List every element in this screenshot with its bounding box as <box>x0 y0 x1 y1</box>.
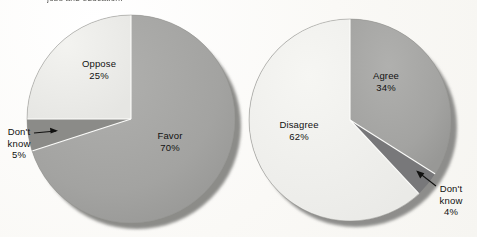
right-label-disagree-name: Disagree <box>279 119 318 130</box>
left-pie-chart <box>27 15 241 229</box>
right-label-dontknow: Don't know 4% <box>432 183 470 218</box>
left-label-favor-name: Favor <box>157 130 182 141</box>
left-label-oppose: Oppose 25% <box>72 58 126 81</box>
left-label-dontknow-name2: know <box>2 138 36 150</box>
pie-charts-svg <box>0 0 477 237</box>
right-label-agree: Agree 34% <box>360 70 412 93</box>
figure-canvas: jobs and education. <box>0 0 477 237</box>
left-label-oppose-name: Oppose <box>82 58 116 69</box>
right-label-agree-name: Agree <box>373 70 399 81</box>
left-label-oppose-value: 25% <box>72 70 126 82</box>
left-label-dontknow-value: 5% <box>2 149 36 161</box>
right-label-disagree: Disagree 62% <box>267 119 331 142</box>
right-label-dontknow-name1: Don't <box>440 183 463 194</box>
left-label-dontknow: Don't know 5% <box>2 126 36 161</box>
left-label-favor: Favor 70% <box>144 130 196 153</box>
right-label-dontknow-value: 4% <box>432 206 470 218</box>
right-label-dontknow-name2: know <box>432 195 470 207</box>
right-label-disagree-value: 62% <box>267 131 331 143</box>
left-label-favor-value: 70% <box>144 142 196 154</box>
left-label-dontknow-name1: Don't <box>8 126 31 137</box>
right-label-agree-value: 34% <box>360 82 412 94</box>
